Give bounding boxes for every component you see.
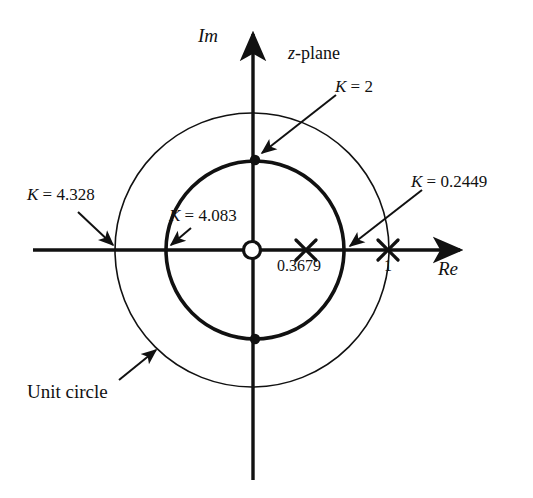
z-plane-root-locus-figure: Im Re z-plane K = 2 K = 0.2449 K = 4.328… <box>0 0 533 498</box>
gain-label-k-equals-4.083: K = 4.083 <box>169 207 237 224</box>
z-plane-label-italic: z <box>288 43 295 63</box>
gain-equals: = <box>346 77 364 96</box>
real-axis-label: Re <box>438 259 458 278</box>
z-plane-label: z-plane <box>288 44 340 62</box>
gain-equals: = <box>180 206 198 225</box>
pole-value-label-0.3679: 0.3679 <box>277 258 321 274</box>
leader-line-unit-circle <box>119 350 156 380</box>
leader-line-k4083 <box>171 228 191 245</box>
leader-line-k02449 <box>350 190 422 246</box>
zero-marker-origin <box>244 242 261 259</box>
leader-line-k2 <box>262 95 336 153</box>
gain-variable: K <box>411 172 422 191</box>
gain-value: 4.083 <box>198 206 236 225</box>
z-plane-label-rest: -plane <box>295 43 340 63</box>
gain-label-k-equals-0.2449: K = 0.2449 <box>411 173 487 190</box>
gain-value: 2 <box>364 77 373 96</box>
breakpoint-dot-upper <box>250 155 260 165</box>
gain-value: 4.328 <box>56 185 94 204</box>
gain-variable: K <box>169 206 180 225</box>
gain-variable: K <box>27 185 38 204</box>
gain-label-k-equals-2: K = 2 <box>335 78 373 95</box>
leader-line-k4328 <box>78 212 113 245</box>
gain-value: 0.2449 <box>440 172 487 191</box>
root-locus-plot <box>0 0 533 498</box>
imaginary-axis-label: Im <box>198 26 218 45</box>
pole-value-label-1: 1 <box>384 258 392 274</box>
gain-equals: = <box>422 172 440 191</box>
gain-label-k-equals-4.328: K = 4.328 <box>27 186 95 203</box>
gain-variable: K <box>335 77 346 96</box>
unit-circle-label: Unit circle <box>27 382 108 401</box>
breakpoint-dot-lower <box>250 334 260 344</box>
gain-equals: = <box>38 185 56 204</box>
